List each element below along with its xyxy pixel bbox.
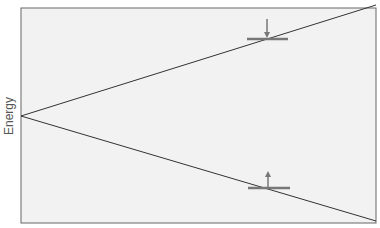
y-axis-label: Energy — [2, 97, 16, 135]
plot-frame — [21, 8, 376, 223]
energy-diagram: Energy — [0, 0, 380, 228]
